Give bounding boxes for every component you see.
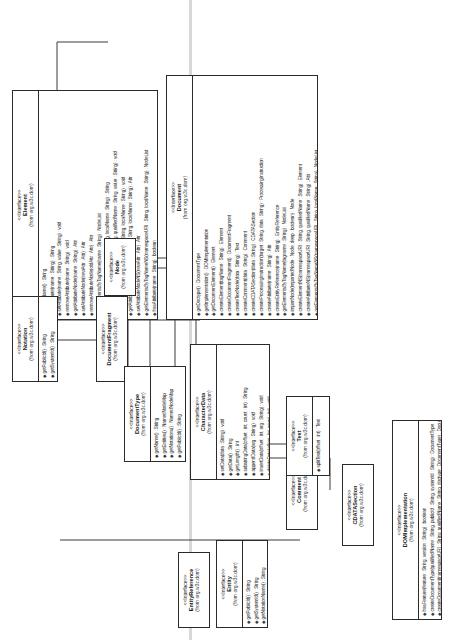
package-label: (from org.w3c.dom) — [409, 423, 415, 617]
operation-list: ◆ hasFeature(feature : String, version :… — [419, 421, 442, 619]
operation-item: ◆ getPublicId() : String — [245, 543, 253, 624]
class-box-entity[interactable]: <<Interface>> Entity (from org.w3c.dom) … — [216, 540, 268, 628]
operation-list: ◆ getDoctype() : DocumentType ◆ getImple… — [193, 76, 318, 319]
operation-item: ◆ getLength() : int — [234, 347, 242, 476]
class-header-dom-implementation: <<Interface>> DOMImplementation (from or… — [393, 421, 419, 619]
operation-item: ◆ importNode(importedNode : Node, deep :… — [289, 78, 297, 316]
operation-item: ◆ getSystemId() : String — [49, 299, 57, 378]
class-header-character-data: <<Interface>> CharacterData (from org.w3… — [191, 345, 217, 479]
operation-item: ◆ createDocument(namespaceURI : String, … — [436, 423, 442, 616]
operation-item: ◆ createAttributeNS(namespaceURI : Strin… — [305, 78, 313, 316]
uml-diagram-canvas: <<Interface>> Attr (from org.w3c.dom) ◆ … — [0, 0, 455, 640]
operation-item: ◆ createProcessingInstruction(target : S… — [258, 78, 266, 316]
class-box-element[interactable]: <<Interface>> Element (from org.w3c.dom)… — [12, 90, 158, 320]
class-box-character-data[interactable]: <<Interface>> CharacterData (from org.w3… — [190, 344, 270, 480]
package-label: (from org.w3c.dom) — [195, 555, 201, 625]
operation-item: ◆ getAttributeNode(name : String) : Attr — [72, 93, 80, 316]
operation-item: ◆ getTagName() : String — [41, 93, 49, 316]
class-box-node[interactable]: <<Interface>> Node (from org.w3c.dom) — [104, 238, 136, 296]
operation-item: ◆ createEntityReference(name : String) :… — [274, 78, 282, 316]
class-box-document[interactable]: <<Interface>> Document (from org.w3c.dom… — [166, 75, 318, 320]
operation-item: ◆ getImplementation() : DOMImplementatio… — [203, 78, 211, 316]
class-box-cdata-section[interactable]: <<Interface>> CDATASection (from org.w3c… — [342, 464, 374, 546]
operation-item: ◆ getElementsByTagNameNS(namespaceURI : … — [143, 93, 151, 316]
package-label: (from org.w3c.dom) — [113, 299, 119, 379]
operation-item: ◆ createElementNS(namespaceURI : String,… — [297, 78, 305, 316]
class-header-cdata-section: <<Interface>> CDATASection (from org.w3c… — [343, 465, 368, 545]
package-label: (from org.w3c.dom) — [183, 78, 189, 317]
class-box-dom-implementation[interactable]: <<Interface>> DOMImplementation (from or… — [392, 420, 442, 620]
class-box-document-type[interactable]: <<Interface>> DocumentType (from org.w3c… — [124, 366, 186, 462]
operation-item: ◆ getDocumentElement() : Element — [210, 78, 218, 316]
operation-item: ◆ getElementsByTagName(tagname : String)… — [281, 78, 289, 316]
operation-item: ◆ setAttributeNodeNS(newAttr : Attr) : A… — [135, 93, 143, 316]
class-header-text: <<Interface>> Text (from org.w3c.dom) — [287, 397, 313, 475]
operation-item: ◆ getNotationName() : String — [260, 543, 268, 624]
package-label: (from org.w3c.dom) — [233, 543, 239, 625]
class-header-document: <<Interface>> Document (from org.w3c.dom… — [167, 76, 193, 319]
operation-list: ◆ splitText(offset : int) : Text — [313, 397, 325, 475]
class-header-document-fragment: <<Interface>> DocumentFragment (from org… — [97, 297, 122, 381]
operation-item: ◆ deleteData(offset : int, count : int) … — [266, 347, 270, 476]
operation-item: ◆ getName() : String — [153, 369, 161, 458]
operation-list: ◆ getTagName() : String ◆ getAttribute(n… — [39, 91, 158, 319]
operation-item: ◆ setAttribute(name : String, value : St… — [56, 93, 64, 316]
class-header-node: <<Interface>> Node (from org.w3c.dom) — [105, 239, 130, 295]
operation-item: ◆ setData(data : String) : void — [219, 347, 227, 476]
operation-list: ◆ getPublicId() : String ◆ getSystemId()… — [243, 541, 268, 627]
package-label: (from org.w3c.dom) — [303, 399, 309, 473]
operation-list: ◆ setData(data : String) : void ◆ getDat… — [217, 345, 270, 479]
package-label: (from org.w3c.dom) — [141, 369, 147, 459]
operation-item: ◆ getSystemId() : String — [253, 543, 261, 624]
package-label: (from org.w3c.dom) — [29, 93, 35, 317]
operation-item: ◆ createDocumentType(qualifiedName : Str… — [429, 423, 437, 616]
class-header-entity-reference: <<Interface>> EntityReference (from org.… — [179, 553, 204, 627]
class-header-entity: <<Interface>> Entity (from org.w3c.dom) — [217, 541, 243, 627]
operation-item: ◆ createDocumentFragment() : DocumentFra… — [226, 78, 234, 316]
package-label: (from org.w3c.dom) — [121, 241, 127, 293]
class-box-notation[interactable]: <<Interface>> Notation (from org.w3c.dom… — [12, 296, 58, 382]
class-box-text[interactable]: <<Interface>> Text (from org.w3c.dom) ◆ … — [286, 396, 330, 476]
operation-item: ◆ hasAttribute(name : String) : boolean — [151, 93, 158, 316]
operation-item: ◆ getElementsByTagNameNS(namespaceURI : … — [313, 78, 318, 316]
operation-item: ◆ getAttribute(name : String) : String — [49, 93, 57, 316]
operation-item: ◆ createAttribute(name : String) : Attr — [266, 78, 274, 316]
package-label: (from org.w3c.dom) — [359, 467, 365, 543]
operation-item: ◆ removeAttribute(name : String) : void — [64, 93, 72, 316]
operation-item: ◆ getDoctype() : DocumentType — [195, 78, 203, 316]
operation-item: ◆ removeAttributeNode(oldAttr : Attr) : … — [88, 93, 96, 316]
operation-item: ◆ getPublicId() : String — [41, 299, 49, 378]
operation-item: ◆ insertData(offset : int, arg : String)… — [258, 347, 266, 476]
operation-item: ◆ createElement(tagName : String) : Elem… — [218, 78, 226, 316]
operation-item: ◆ getData() : String — [227, 347, 235, 476]
class-box-entity-reference[interactable]: <<Interface>> EntityReference (from org.… — [178, 552, 210, 628]
class-header-notation: <<Interface>> Notation (from org.w3c.dom… — [13, 297, 39, 381]
operation-item: ◆ getPublicId() : String — [176, 369, 184, 458]
operation-item: ◆ createTextNode(data : String) : Text — [234, 78, 242, 316]
operation-item: ◆ createComment(data : String) : Comment — [242, 78, 250, 316]
operation-list: ◆ getPublicId() : String ◆ getSystemId()… — [39, 297, 58, 381]
operation-item: ◆ hasFeature(feature : String, version :… — [421, 423, 429, 616]
package-label: (from org.w3c.dom) — [207, 347, 213, 477]
operation-item: ◆ getNotations() : NamedNodeMap — [168, 369, 176, 458]
class-header-element: <<Interface>> Element (from org.w3c.dom) — [13, 91, 39, 319]
operation-item: ◆ substringData(offset : int, count : in… — [242, 347, 250, 476]
package-label: (from org.w3c.dom) — [29, 299, 35, 379]
operation-item: ◆ appendData(arg : String) : void — [250, 347, 258, 476]
operation-item: ◆ getSystemId() : String — [184, 369, 186, 458]
operation-item: ◆ setAttributeNode(newAttr : Attr) : Att… — [80, 93, 88, 316]
operation-list: ◆ getName() : String ◆ getEntities() : N… — [151, 367, 186, 461]
operation-item: ◆ createCDATASection(data : String) : CD… — [250, 78, 258, 316]
operation-item: ◆ splitText(offset : int) : Text — [315, 399, 323, 472]
operation-item: ◆ getElementsByTagName(name : String) : … — [96, 93, 104, 316]
operation-item: ◆ getEntities() : NamedNodeMap — [161, 369, 169, 458]
class-header-document-type: <<Interface>> DocumentType (from org.w3c… — [125, 367, 151, 461]
